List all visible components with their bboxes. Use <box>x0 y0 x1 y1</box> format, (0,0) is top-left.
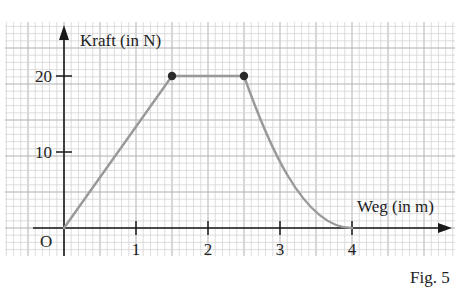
x-axis-label: Weg (in m) <box>357 197 434 216</box>
figure-caption: Fig. 5 <box>410 268 450 287</box>
x-tick-label: 3 <box>276 240 285 259</box>
force-distance-chart: 12341020 Kraft (in N) Weg (in m) O Fig. … <box>0 0 474 297</box>
axes <box>33 25 452 256</box>
x-tick-label: 2 <box>204 240 213 259</box>
grid <box>5 22 455 256</box>
y-tick-label: 20 <box>35 67 52 86</box>
origin-label: O <box>40 232 52 251</box>
x-tick-label: 1 <box>132 240 141 259</box>
x-tick-label: 4 <box>348 240 357 259</box>
y-tick-label: 10 <box>35 143 52 162</box>
data-point <box>240 72 248 80</box>
data-point <box>168 72 176 80</box>
y-axis-label: Kraft (in N) <box>80 31 161 50</box>
